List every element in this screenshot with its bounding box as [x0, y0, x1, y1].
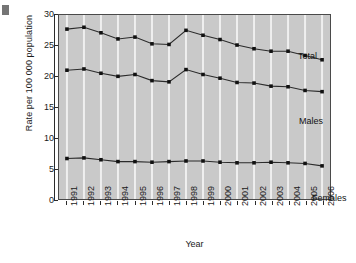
x-tick-mark [117, 201, 118, 205]
x-tick-label: 1998 [190, 186, 199, 206]
y-tick-label: 5 [34, 165, 54, 174]
x-tick-mark [323, 201, 324, 205]
plot-area: Total Males Females [58, 14, 331, 200]
x-tick-mark [186, 201, 187, 205]
series-label-total: Total [298, 51, 317, 61]
x-tick-mark [135, 201, 136, 205]
x-tick-mark [237, 201, 238, 205]
x-tick-mark [169, 201, 170, 205]
y-tick-label: 20 [34, 72, 54, 81]
x-tick-mark [152, 201, 153, 205]
x-tick-mark [255, 201, 256, 205]
x-tick-mark [66, 201, 67, 205]
x-tick-label: 1994 [121, 186, 130, 206]
x-tick-label: 1995 [139, 186, 148, 206]
x-tick-label: 1997 [173, 186, 182, 206]
x-axis-ticks: 1991199219931994199519961997199819992000… [58, 201, 331, 261]
x-tick-mark [100, 201, 101, 205]
y-axis-title: Rate per 100 000 population [24, 0, 34, 158]
x-tick-mark [306, 201, 307, 205]
x-tick-label: 1999 [207, 186, 216, 206]
series-label-males: Males [299, 116, 323, 126]
x-tick-label: 2000 [224, 186, 233, 206]
y-tick-label: 0 [34, 196, 54, 205]
x-tick-label: 2002 [259, 186, 268, 206]
x-tick-mark [272, 201, 273, 205]
x-tick-mark [203, 201, 204, 205]
x-tick-mark [83, 201, 84, 205]
x-tick-label: 2004 [293, 186, 302, 206]
y-tick-label: 25 [34, 41, 54, 50]
x-tick-label: 2005 [310, 186, 319, 206]
x-tick-label: 1993 [104, 186, 113, 206]
x-tick-mark [220, 201, 221, 205]
x-tick-label: 1992 [87, 186, 96, 206]
x-tick-label: 2006 [327, 186, 336, 206]
x-tick-label: 2001 [241, 186, 250, 206]
x-tick-label: 2003 [276, 186, 285, 206]
chart-figure: 051015202530 Rate per 100 000 population… [0, 0, 356, 263]
y-tick-label: 30 [34, 10, 54, 19]
y-tick-label: 10 [34, 134, 54, 143]
x-axis-title: Year [58, 239, 331, 249]
y-tick-label: 15 [34, 103, 54, 112]
page-corner-mark [2, 5, 9, 15]
x-tick-label: 1991 [70, 186, 79, 206]
x-tick-mark [289, 201, 290, 205]
x-tick-label: 1996 [156, 186, 165, 206]
series-lines [59, 15, 330, 199]
